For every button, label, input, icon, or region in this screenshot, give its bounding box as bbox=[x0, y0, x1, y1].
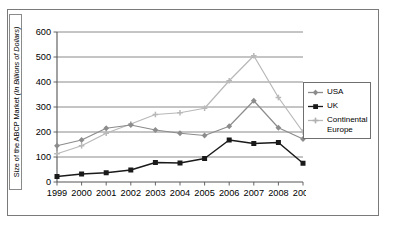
legend-label-uk: UK bbox=[327, 101, 338, 111]
legend-label-continental-europe: Continental Europe bbox=[327, 115, 367, 134]
data-point-marker bbox=[177, 130, 183, 136]
data-series-layer bbox=[54, 53, 306, 179]
x-tick-label: 2007 bbox=[244, 188, 264, 198]
y-axis-title-box: Size of the ABCP Market (In Billions of … bbox=[9, 14, 22, 190]
series-continental-europe bbox=[54, 53, 306, 157]
data-point-marker bbox=[54, 143, 60, 149]
data-point-marker bbox=[251, 141, 256, 146]
data-point-marker bbox=[104, 170, 109, 175]
y-axis-title-main: Size of the ABCP Market bbox=[11, 95, 20, 177]
plot-area: 0100200300400500600 19992000200120022003… bbox=[24, 14, 306, 206]
y-tick-label: 200 bbox=[36, 127, 51, 137]
x-tick-label: 2000 bbox=[71, 188, 91, 198]
series-line bbox=[57, 140, 303, 177]
x-tick-label: 2004 bbox=[170, 188, 190, 198]
legend-marker-diamond-icon bbox=[307, 87, 324, 98]
gridlines bbox=[57, 32, 303, 157]
y-tick-label: 100 bbox=[36, 152, 51, 162]
data-point-marker bbox=[301, 161, 306, 166]
data-point-marker bbox=[79, 172, 84, 177]
x-axis-tick-labels: 1999200020012002200320042005200620072008… bbox=[47, 188, 306, 198]
data-point-marker bbox=[178, 161, 183, 166]
legend-label-usa: USA bbox=[327, 87, 343, 97]
data-point-marker bbox=[128, 168, 133, 173]
line-chart-svg: 0100200300400500600 19992000200120022003… bbox=[24, 14, 306, 206]
data-point-marker bbox=[153, 160, 158, 165]
y-axis-title-units: (In Billions of Dollars) bbox=[11, 27, 20, 96]
series-uk bbox=[55, 138, 306, 180]
legend-marker-cross-icon bbox=[307, 115, 324, 126]
data-point-marker bbox=[227, 138, 232, 143]
legend-item-uk[interactable]: UK bbox=[307, 101, 367, 112]
x-tick-label: 1999 bbox=[47, 188, 67, 198]
data-point-marker bbox=[103, 125, 109, 131]
legend-item-continental-europe[interactable]: Continental Europe bbox=[307, 115, 367, 134]
x-tick-label: 2006 bbox=[219, 188, 239, 198]
data-point-marker bbox=[79, 137, 85, 143]
y-tick-label: 500 bbox=[36, 52, 51, 62]
y-axis-title: Size of the ABCP Market (In Billions of … bbox=[11, 27, 20, 178]
y-axis-tick-labels: 0100200300400500600 bbox=[36, 27, 51, 187]
data-point-marker bbox=[276, 140, 281, 145]
legend-item-usa[interactable]: USA bbox=[307, 87, 367, 98]
data-point-marker bbox=[202, 156, 207, 161]
x-tick-label: 2002 bbox=[121, 188, 141, 198]
chart-legend: USA UK Continental Europe bbox=[303, 82, 371, 139]
data-point-marker bbox=[55, 174, 60, 179]
data-point-marker bbox=[202, 133, 208, 139]
x-tick-label: 2005 bbox=[194, 188, 214, 198]
x-tick-label: 2001 bbox=[96, 188, 116, 198]
y-tick-label: 400 bbox=[36, 77, 51, 87]
y-tick-label: 300 bbox=[36, 102, 51, 112]
y-tick-label: 0 bbox=[46, 177, 51, 187]
x-tick-label: 2003 bbox=[145, 188, 165, 198]
y-tick-label: 600 bbox=[36, 27, 51, 37]
series-line bbox=[57, 56, 303, 154]
legend-marker-square-icon bbox=[307, 101, 324, 112]
x-tick-label: 2009 bbox=[293, 188, 306, 198]
x-tick-label: 2008 bbox=[268, 188, 288, 198]
